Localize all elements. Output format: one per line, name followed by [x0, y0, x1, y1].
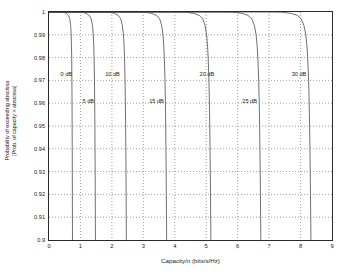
- y-axis-label-line1: Probability of exceeding abscissa: [4, 81, 10, 161]
- curve-label-30-db: 30 dB: [292, 71, 307, 77]
- curve-label-10-db: 10 dB: [105, 71, 120, 77]
- x-tick-label: 4: [173, 243, 176, 249]
- curve-10-db: [49, 12, 126, 240]
- y-axis-label-line2: [Prob. of capacity > abscissa]: [11, 81, 18, 161]
- y-tick-label: 0.91: [23, 214, 45, 220]
- plot-area: 0 dB5 dB10 dB15 dB20 dB25 dB30 dB: [48, 11, 333, 241]
- y-tick-label: 1: [23, 9, 45, 15]
- x-tick-label: 2: [110, 243, 113, 249]
- y-axis-label-container: Probability of exceeding abscissa [Prob.…: [0, 0, 22, 241]
- x-tick-label: 1: [79, 243, 82, 249]
- y-tick-label: 0.93: [23, 169, 45, 175]
- curve-label-25-db: 25 dB: [242, 98, 257, 104]
- curve-label-20-db: 20 dB: [200, 71, 215, 77]
- figure-canvas: Probability of exceeding abscissa [Prob.…: [0, 0, 343, 274]
- x-tick-label: 6: [236, 243, 239, 249]
- y-tick-label: 0.98: [23, 55, 45, 61]
- curve-label-0-db: 0 dB: [61, 71, 73, 77]
- x-tick-label: 3: [142, 243, 145, 249]
- plot-svg: [49, 12, 332, 240]
- curve-label-15-db: 15 dB: [149, 98, 164, 104]
- y-axis-label: Probability of exceeding abscissa [Prob.…: [4, 81, 17, 161]
- y-tick-label: 0.95: [23, 123, 45, 129]
- y-tick-label: 0.97: [23, 77, 45, 83]
- y-tick-label: 0.9: [23, 237, 45, 243]
- y-tick-label: 0.94: [23, 146, 45, 152]
- y-tick-label: 0.92: [23, 191, 45, 197]
- horizontal-gridlines: [49, 35, 332, 217]
- y-tick-label: 0.96: [23, 100, 45, 106]
- x-tick-label: 5: [205, 243, 208, 249]
- x-axis-label: Capacity/n (bits/s/Hz): [48, 257, 333, 264]
- x-tick-label: 7: [267, 243, 270, 249]
- curve-label-5-db: 5 dB: [83, 98, 95, 104]
- x-tick-label: 0: [47, 243, 50, 249]
- y-tick-label: 0.99: [23, 32, 45, 38]
- x-tick-label: 9: [330, 243, 333, 249]
- x-tick-label: 8: [299, 243, 302, 249]
